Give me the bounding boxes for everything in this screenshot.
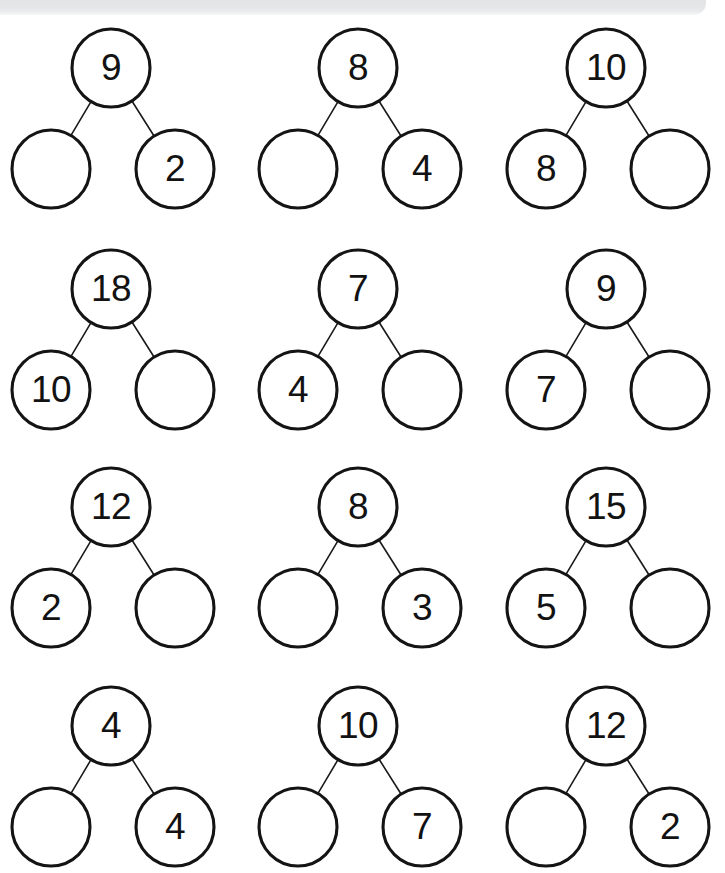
whole-value-2: 8 [348, 47, 368, 88]
part-left-value-9: 5 [536, 587, 556, 628]
bond-link-left-8 [318, 541, 337, 573]
part-left-circle-8[interactable] [259, 569, 337, 647]
part-right-value-8: 3 [412, 587, 432, 628]
number-bond-8: 83 [259, 468, 461, 647]
bond-link-right-11 [379, 760, 400, 793]
part-left-circle-2[interactable] [259, 130, 337, 208]
part-left-circle-12[interactable] [507, 788, 585, 866]
whole-value-11: 10 [338, 705, 378, 746]
part-left-circle-1[interactable] [12, 130, 90, 208]
part-right-value-10: 4 [165, 806, 185, 847]
bond-link-right-4 [132, 323, 153, 356]
bond-link-right-1 [132, 102, 153, 135]
number-bond-7: 122 [12, 468, 214, 647]
number-bonds-worksheet: 9284108181074971228315544107122 [0, 0, 725, 873]
bond-link-left-9 [566, 541, 585, 573]
whole-value-12: 12 [586, 705, 626, 746]
part-left-value-7: 2 [41, 587, 61, 628]
whole-value-3: 10 [586, 47, 626, 88]
part-left-value-5: 4 [288, 369, 308, 410]
number-bond-1: 92 [12, 29, 214, 208]
bond-link-left-2 [318, 102, 337, 134]
part-left-value-4: 10 [31, 369, 71, 410]
bond-link-right-6 [627, 323, 648, 356]
bond-link-right-5 [379, 323, 400, 356]
bond-link-left-12 [566, 760, 585, 792]
whole-value-9: 15 [586, 486, 626, 527]
bond-link-left-1 [71, 102, 90, 134]
part-right-circle-9[interactable] [631, 569, 709, 647]
number-bond-4: 1810 [12, 250, 214, 429]
bond-link-left-11 [318, 760, 337, 792]
part-right-circle-6[interactable] [631, 351, 709, 429]
bond-link-left-10 [71, 760, 90, 792]
number-bond-10: 44 [12, 687, 214, 866]
part-right-circle-4[interactable] [136, 351, 214, 429]
whole-value-1: 9 [101, 47, 121, 88]
whole-value-4: 18 [91, 268, 131, 309]
part-left-value-6: 7 [536, 369, 556, 410]
part-left-circle-10[interactable] [12, 788, 90, 866]
bond-link-right-9 [627, 541, 648, 574]
number-bond-2: 84 [259, 29, 461, 208]
bond-link-left-7 [71, 541, 90, 573]
part-right-value-1: 2 [165, 148, 185, 189]
bond-link-left-5 [318, 323, 337, 355]
number-bond-9: 155 [507, 468, 709, 647]
bond-link-right-10 [132, 760, 153, 793]
part-right-value-12: 2 [660, 806, 680, 847]
bond-link-right-12 [627, 760, 648, 793]
part-right-circle-5[interactable] [383, 351, 461, 429]
number-bond-6: 97 [507, 250, 709, 429]
number-bond-11: 107 [259, 687, 461, 866]
bond-link-right-3 [627, 102, 648, 135]
bond-link-left-3 [566, 102, 585, 134]
part-right-value-2: 4 [412, 148, 432, 189]
whole-value-10: 4 [101, 705, 121, 746]
whole-value-8: 8 [348, 486, 368, 527]
part-right-circle-7[interactable] [136, 569, 214, 647]
bond-link-right-2 [379, 102, 400, 135]
number-bonds-canvas: 9284108181074971228315544107122 [0, 0, 725, 873]
bond-link-right-8 [379, 541, 400, 574]
number-bond-12: 122 [507, 687, 709, 866]
part-right-value-11: 7 [412, 806, 432, 847]
number-bond-3: 108 [507, 29, 709, 208]
whole-value-7: 12 [91, 486, 131, 527]
bond-link-left-6 [566, 323, 585, 355]
part-right-circle-3[interactable] [631, 130, 709, 208]
whole-value-5: 7 [348, 268, 368, 309]
whole-value-6: 9 [596, 268, 616, 309]
bond-link-left-4 [71, 323, 90, 355]
bond-link-right-7 [132, 541, 153, 574]
part-left-circle-11[interactable] [259, 788, 337, 866]
number-bond-5: 74 [259, 250, 461, 429]
part-left-value-3: 8 [536, 148, 556, 189]
